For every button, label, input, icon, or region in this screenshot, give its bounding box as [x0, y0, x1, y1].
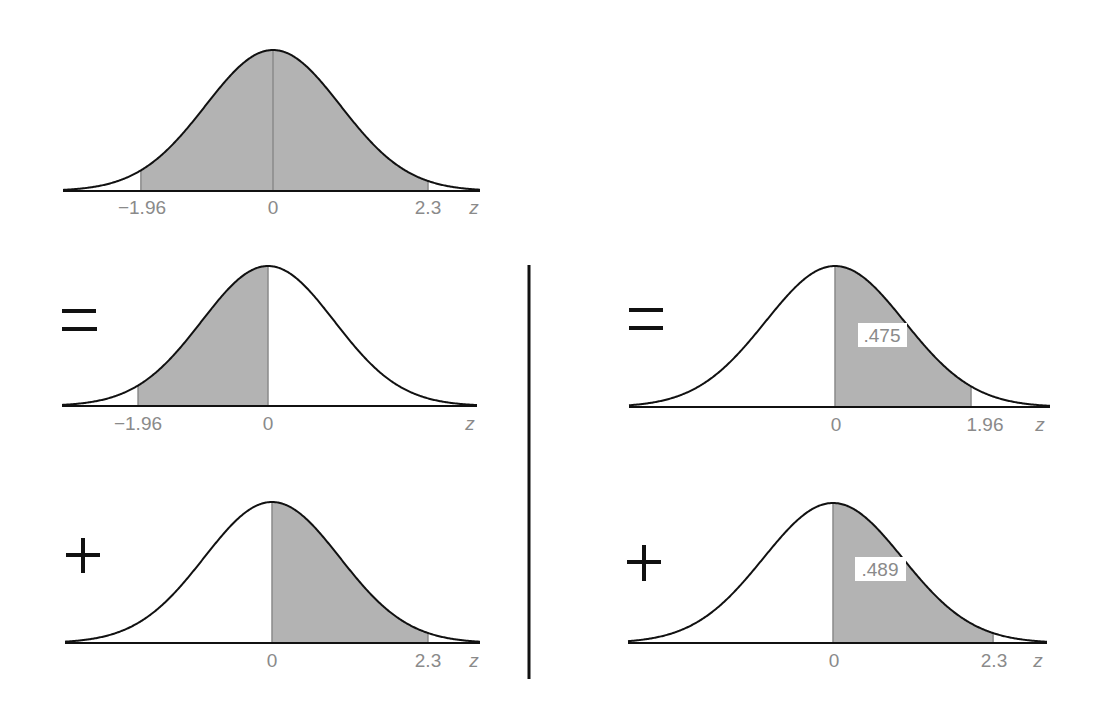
axis-label-z: z	[464, 413, 475, 434]
plus-sign-icon	[627, 545, 661, 581]
panel-middle-left: −1.96 0 z	[62, 266, 477, 434]
plus-sign-icon	[66, 538, 100, 573]
tick-label-neg-1-96: −1.96	[118, 197, 166, 218]
tick-label-1-96: 1.96	[967, 414, 1004, 435]
tick-label-0: 0	[263, 413, 274, 434]
shaded-area	[138, 266, 268, 406]
normal-distribution-diagram: −1.96 0 2.3 z −1.96 0 z 0 2.3 z	[0, 0, 1103, 702]
normal-curve	[62, 266, 477, 405]
area-label-value: .475	[864, 325, 901, 346]
panel-top-total-area: −1.96 0 2.3 z	[63, 50, 480, 218]
area-label-value: .489	[862, 559, 899, 580]
panel-bottom-left: 0 2.3 z	[65, 502, 480, 671]
tick-label-neg-1-96: −1.96	[114, 413, 162, 434]
equals-sign-icon	[62, 311, 97, 329]
shaded-area	[141, 50, 428, 191]
tick-label-2-3: 2.3	[981, 650, 1007, 671]
panel-bottom-right: .489 0 2.3 z	[627, 503, 1047, 671]
tick-label-0: 0	[267, 650, 278, 671]
axis-label-z: z	[468, 197, 479, 218]
tick-label-0: 0	[268, 197, 279, 218]
axis-label-z: z	[1034, 414, 1045, 435]
axis-label-z: z	[468, 650, 479, 671]
tick-label-2-3: 2.3	[415, 197, 441, 218]
axis-label-z: z	[1032, 650, 1043, 671]
equals-sign-icon	[629, 310, 663, 328]
panel-middle-right: .475 0 1.96 z	[629, 266, 1050, 435]
tick-label-0: 0	[829, 650, 840, 671]
tick-label-2-3: 2.3	[415, 650, 441, 671]
tick-label-0: 0	[831, 414, 842, 435]
